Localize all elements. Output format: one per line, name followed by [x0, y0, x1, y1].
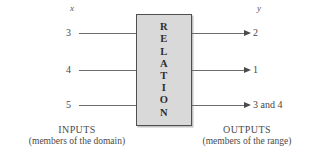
output-value: 3 and 4: [253, 99, 282, 110]
relation-letter: I: [162, 82, 166, 94]
relation-letter: L: [160, 46, 167, 58]
output-connector-line: [192, 105, 245, 106]
relation-letter: N: [160, 107, 168, 119]
outputs-caption-title: OUTPUTS: [180, 124, 314, 135]
outputs-caption: OUTPUTS (members of the range): [180, 124, 314, 146]
input-value: 4: [57, 64, 71, 75]
inputs-caption-subtitle: (members of the domain): [2, 136, 152, 146]
output-connector-line: [192, 33, 245, 34]
relation-letter: R: [160, 21, 168, 33]
relation-diagram: x y 3 4 5 R E L A T I O N 2 1 3 and 4 IN…: [0, 0, 315, 155]
output-connector-line: [192, 70, 245, 71]
arrow-right-icon: [244, 30, 251, 36]
relation-letter: E: [160, 33, 167, 45]
input-variable-label: x: [62, 3, 82, 13]
arrow-right-icon: [244, 102, 251, 108]
relation-box: R E L A T I O N: [136, 14, 192, 126]
output-value: 1: [253, 64, 258, 75]
arrow-right-icon: [244, 67, 251, 73]
inputs-caption: INPUTS (members of the domain): [2, 124, 152, 146]
output-variable-label: y: [249, 3, 269, 13]
relation-letter: O: [160, 94, 168, 106]
input-connector-line: [79, 70, 136, 71]
relation-box-label: R E L A T I O N: [160, 21, 168, 119]
input-connector-line: [79, 105, 136, 106]
output-value: 2: [253, 27, 258, 38]
input-value: 5: [57, 99, 71, 110]
input-value: 3: [57, 27, 71, 38]
input-connector-line: [79, 33, 136, 34]
relation-letter: A: [160, 58, 168, 70]
outputs-caption-subtitle: (members of the range): [180, 136, 314, 146]
relation-letter: T: [160, 70, 167, 82]
inputs-caption-title: INPUTS: [2, 124, 152, 135]
